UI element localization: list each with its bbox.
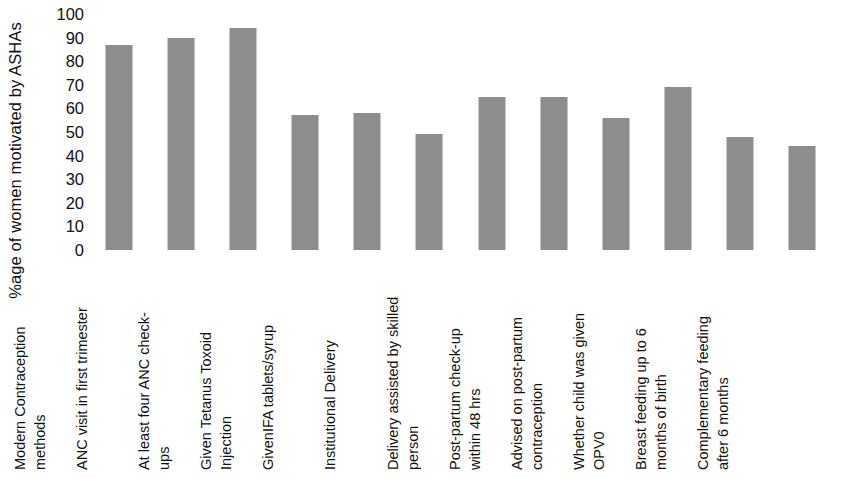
y-axis-tick-label: 20 <box>36 195 84 211</box>
bar-slot <box>336 14 398 250</box>
y-axis-tick-label: 10 <box>36 218 84 234</box>
bar <box>292 115 319 250</box>
x-axis-category-label: Post-partum check-up within 48 hrs <box>445 252 485 470</box>
x-axis-category-label: Institutional Delivery <box>320 252 340 470</box>
x-axis-category-label: Delivery assisted by skilled person <box>383 252 423 470</box>
x-axis-category-label: GivenIFA tablets/syrup <box>258 252 278 470</box>
bar <box>726 137 753 250</box>
x-axis-category-label: Breast feeding up to 6 months of birth <box>631 252 671 470</box>
x-axis-category-label: Advised on post-partum contraception <box>507 252 547 470</box>
bar-slot <box>398 14 460 250</box>
bar <box>478 97 505 250</box>
bar <box>354 113 381 250</box>
bar-slot <box>461 14 523 250</box>
bar <box>416 134 443 250</box>
y-axis-tick-label: 100 <box>36 6 84 22</box>
x-axis-category-label: ANC visit in first trimester <box>72 252 92 470</box>
bar-slot <box>523 14 585 250</box>
bar <box>230 28 257 250</box>
y-axis-tick-label: 80 <box>36 53 84 69</box>
y-axis-tick-label: 70 <box>36 77 84 93</box>
x-axis-label-slot: Complementary feeding after 6 months <box>771 252 833 478</box>
x-axis-category-label: Complementary feeding after 6 months <box>693 252 733 470</box>
bar-slot <box>585 14 647 250</box>
y-axis-tick-label: 60 <box>36 100 84 116</box>
bar-slot <box>647 14 709 250</box>
bar <box>788 146 815 250</box>
bar-slot <box>771 14 833 250</box>
bar-slot <box>212 14 274 250</box>
bar-slot <box>709 14 771 250</box>
bar-slot <box>274 14 336 250</box>
y-axis-tick-label: 90 <box>36 30 84 46</box>
x-axis-category-label: Whether child was given OPV0 <box>569 252 609 470</box>
y-axis-tick-label: 50 <box>36 124 84 140</box>
x-axis-category-label: Modern Contraception methods <box>10 252 50 470</box>
bar-slot <box>88 14 150 250</box>
x-axis-category-label: Given Tetanus Toxoid Injection <box>196 252 236 470</box>
bar <box>540 97 567 250</box>
x-axis-category-labels: Modern Contraception methodsANC visit in… <box>88 252 833 478</box>
bar-slot <box>150 14 212 250</box>
bar <box>106 45 133 250</box>
y-axis-tick-label: 40 <box>36 148 84 164</box>
bar <box>664 87 691 250</box>
bar <box>602 118 629 250</box>
plot-area <box>88 14 833 250</box>
y-axis-tick-label: 30 <box>36 171 84 187</box>
bar <box>168 38 195 250</box>
y-axis-tick-labels: 1009080706050403020100 <box>36 0 84 260</box>
x-axis-category-label: At least four ANC check- ups <box>134 252 174 470</box>
bar-chart: %age of women motivated by ASHAs 1009080… <box>0 0 841 478</box>
